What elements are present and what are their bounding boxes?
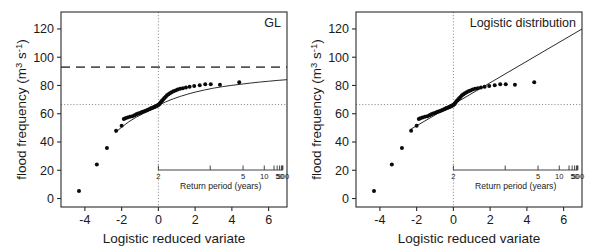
data-point xyxy=(120,124,124,128)
flood-frequency-figure: 020406080100120-4-20246Logistic reduced … xyxy=(0,0,590,252)
x-tick-label: -4 xyxy=(374,213,385,227)
inset-tick-label: 2 xyxy=(451,172,455,181)
data-point xyxy=(188,85,192,89)
y-tick-label: 40 xyxy=(335,135,349,149)
data-point xyxy=(209,82,213,86)
data-point xyxy=(218,83,222,87)
data-point xyxy=(114,129,118,133)
x-tick-label: 6 xyxy=(265,213,272,227)
x-tick-label: -2 xyxy=(116,213,127,227)
data-point xyxy=(487,84,491,88)
y-tick-label: 40 xyxy=(40,135,54,149)
y-tick-label: 100 xyxy=(33,51,54,65)
y-tick-label: 120 xyxy=(33,22,54,36)
x-axis-title: Logistic reduced variate xyxy=(103,231,246,246)
x-tick-label: 4 xyxy=(523,213,530,227)
y-tick-label: 60 xyxy=(335,107,349,121)
y-tick-label: 0 xyxy=(47,192,54,206)
plot-frame xyxy=(356,12,582,207)
inset-tick-label: 2 xyxy=(156,172,160,181)
gl-plot-svg: 020406080100120-4-20246Logistic reduced … xyxy=(0,0,295,252)
y-axis-title: flood frequency (m3 s-1) xyxy=(13,39,30,180)
fitted-curve-gl-fit xyxy=(115,80,287,133)
x-tick-label: -2 xyxy=(411,213,422,227)
inset-axis-title: Return period (years) xyxy=(180,181,261,191)
data-point xyxy=(483,85,487,89)
y-tick-label: 0 xyxy=(342,192,349,206)
data-point xyxy=(237,80,241,84)
data-point xyxy=(184,85,188,89)
plot-frame xyxy=(61,12,287,207)
y-tick-label: 80 xyxy=(335,79,349,93)
x-tick-label: 0 xyxy=(155,213,162,227)
x-tick-label: 0 xyxy=(450,213,457,227)
y-tick-label: 80 xyxy=(40,79,54,93)
return-period-inset-axis: 251050500Return period (years) xyxy=(156,166,289,192)
inset-tick-label: 500 xyxy=(572,172,585,181)
data-point xyxy=(493,83,497,87)
data-point xyxy=(498,82,502,86)
logistic-plot-svg: 020406080100120-4-20246Logistic reduced … xyxy=(295,0,590,252)
data-point xyxy=(95,163,99,167)
x-tick-label: 4 xyxy=(228,213,235,227)
data-point xyxy=(415,124,419,128)
return-period-inset-axis: 251050500Return period (years) xyxy=(451,166,584,192)
data-point xyxy=(400,146,404,150)
data-point xyxy=(409,129,413,133)
y-tick-label: 100 xyxy=(328,51,349,65)
data-point xyxy=(372,189,376,193)
y-tick-label: 20 xyxy=(335,164,349,178)
inset-tick-label: 5 xyxy=(241,172,245,181)
x-tick-label: 6 xyxy=(560,213,567,227)
y-tick-label: 60 xyxy=(40,107,54,121)
panel-title: Logistic distribution xyxy=(470,16,576,30)
y-tick-label: 20 xyxy=(40,164,54,178)
data-point xyxy=(198,83,202,87)
panel-title: GL xyxy=(264,16,281,30)
data-point xyxy=(504,82,508,86)
data-point xyxy=(105,146,109,150)
data-point xyxy=(192,84,196,88)
inset-tick-label: 10 xyxy=(260,172,268,181)
inset-tick-label: 10 xyxy=(555,172,563,181)
inset-tick-label: 500 xyxy=(277,172,290,181)
x-tick-label: 2 xyxy=(192,213,199,227)
inset-axis-title: Return period (years) xyxy=(475,181,556,191)
inset-tick-label: 5 xyxy=(536,172,540,181)
data-point xyxy=(203,82,207,86)
data-point xyxy=(479,85,483,89)
panel-logistic: 020406080100120-4-20246Logistic reduced … xyxy=(295,0,590,252)
x-tick-label: -4 xyxy=(79,213,90,227)
y-axis-title: flood frequency (m3 s-1) xyxy=(308,39,325,180)
panel-gl: 020406080100120-4-20246Logistic reduced … xyxy=(0,0,295,252)
y-tick-label: 120 xyxy=(328,22,349,36)
data-point xyxy=(77,189,81,193)
data-point xyxy=(390,163,394,167)
x-tick-label: 2 xyxy=(487,213,494,227)
data-point xyxy=(532,80,536,84)
data-point xyxy=(513,83,517,87)
x-axis-title: Logistic reduced variate xyxy=(398,231,541,246)
